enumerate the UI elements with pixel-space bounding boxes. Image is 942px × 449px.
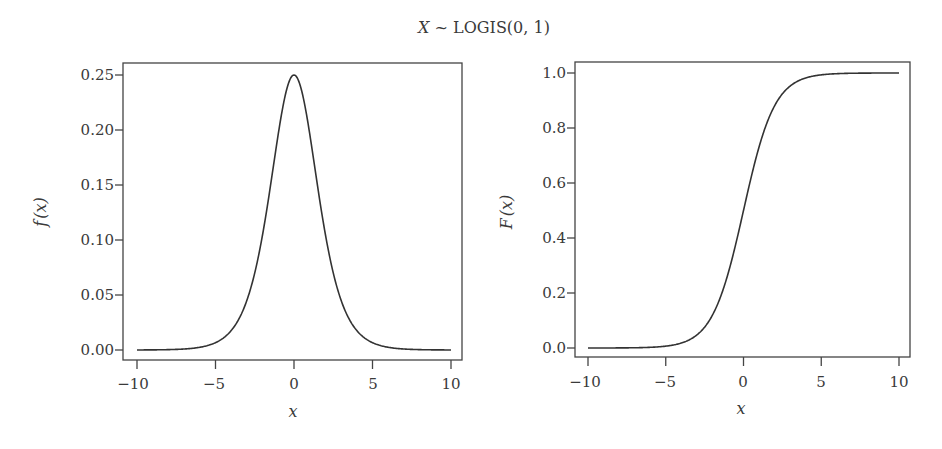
pdf-y-axis-title: f(x): [31, 197, 50, 227]
cdf-ytick-label: 0.2: [542, 284, 566, 302]
cdf-ytick-label: 0.0: [542, 339, 566, 357]
cdf-x-axis-title: x: [736, 399, 745, 418]
pdf-ytick-label: 0.10: [81, 231, 114, 249]
cdf-xtick-label: 0: [738, 373, 748, 391]
pdf-xtick-label: −5: [203, 375, 225, 393]
cdf-x-axis: −10 −5 0 5 10: [569, 357, 908, 391]
cdf-xtick-label: −5: [654, 373, 676, 391]
figure: X ~ LOGIS(0, 1) 0.00 0.05 0.10 0.15 0.20…: [0, 0, 942, 449]
pdf-curve: [137, 75, 451, 350]
pdf-xtick-label: 10: [441, 375, 460, 393]
cdf-y-axis: 0.0 0.2 0.4 0.6 0.8 1.0: [542, 64, 575, 357]
cdf-ytick-label: 0.6: [542, 174, 566, 192]
pdf-x-axis: −10 −5 0 5 10: [117, 360, 460, 393]
title-variable: X: [416, 18, 430, 37]
pdf-plot-frame: [123, 63, 462, 360]
cdf-xtick-label: 10: [889, 373, 908, 391]
pdf-ytick-label: 0.05: [81, 286, 114, 304]
cdf-xtick-label: 5: [816, 373, 826, 391]
pdf-xtick-label: 0: [289, 375, 299, 393]
cdf-ylabel-arg: (x): [497, 195, 516, 217]
cdf-y-axis-title: F(x): [497, 195, 516, 231]
cdf-ytick-label: 0.4: [542, 229, 566, 247]
cdf-ylabel-func: F: [497, 217, 516, 230]
pdf-panel: 0.00 0.05 0.10 0.15 0.20 0.25 −10 −5 0 5…: [31, 63, 462, 421]
cdf-curve: [588, 73, 899, 348]
title-distribution: ~ LOGIS(0, 1): [429, 18, 549, 37]
cdf-plot-frame: [575, 62, 910, 357]
pdf-ytick-label: 0.15: [81, 176, 114, 194]
pdf-xtick-label: −10: [117, 375, 149, 393]
cdf-ytick-label: 0.8: [542, 119, 566, 137]
pdf-y-axis: 0.00 0.05 0.10 0.15 0.20 0.25: [81, 66, 123, 359]
figure-title: X ~ LOGIS(0, 1): [416, 18, 550, 37]
cdf-xtick-label: −10: [569, 373, 601, 391]
cdf-ytick-label: 1.0: [542, 64, 566, 82]
pdf-x-axis-title: x: [288, 402, 297, 421]
cdf-panel: 0.0 0.2 0.4 0.6 0.8 1.0 −10 −5 0 5 10 x …: [497, 62, 910, 418]
pdf-ylabel-arg: (x): [31, 197, 50, 219]
pdf-ytick-label: 0.25: [81, 66, 114, 84]
pdf-xtick-label: 5: [368, 375, 378, 393]
pdf-ytick-label: 0.20: [81, 121, 114, 139]
pdf-ytick-label: 0.00: [81, 341, 114, 359]
